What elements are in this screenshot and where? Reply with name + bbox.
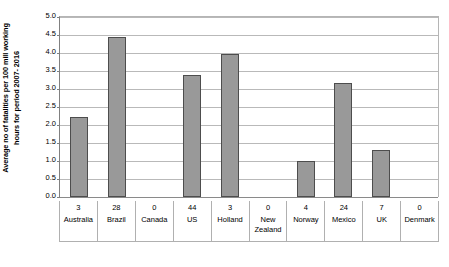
y-axis-title-wrap: Average no of fatalities per 100 mill wo…: [0, 0, 36, 200]
y-axis-tick-label: 0.5: [46, 174, 56, 182]
y-axis-tick-labels: 0.00.51.01.52.02.53.03.54.04.55.0: [36, 16, 58, 197]
bar: [334, 83, 352, 196]
category-label: UK: [363, 215, 400, 241]
y-axis-tick-label: 4.0: [46, 48, 56, 56]
bar-cell: [400, 17, 438, 197]
y-axis-tick-label: 2.5: [46, 102, 56, 110]
category-label: Holland: [212, 215, 249, 241]
y-axis-tick-label: 4.5: [46, 30, 56, 38]
y-axis-tick-label: 1.0: [46, 156, 56, 164]
bar: [372, 150, 390, 197]
bar: [221, 54, 239, 196]
category-count: 7: [363, 201, 400, 215]
bar: [108, 37, 126, 196]
category-count: 3: [212, 201, 249, 215]
category-count: 0: [136, 201, 173, 215]
table-column: 0New Zealand: [249, 201, 287, 241]
y-axis-tick-label: 3.0: [46, 84, 56, 92]
category-count: 28: [98, 201, 135, 215]
category-count: 4: [287, 201, 324, 215]
category-label: Brazil: [98, 215, 135, 241]
table-column: 0Denmark: [400, 201, 438, 241]
table-column: 24Mexico: [324, 201, 362, 241]
bar: [297, 161, 315, 197]
bar-cell: [325, 17, 363, 197]
y-axis-tick-label: 5.0: [46, 12, 56, 20]
category-count: 44: [174, 201, 211, 215]
y-axis-tick-label: 1.5: [46, 138, 56, 146]
bar-cell: [211, 17, 249, 197]
bar-chart: Average no of fatalities per 100 mill wo…: [0, 0, 449, 267]
bar-series: [60, 17, 438, 197]
category-count: 0: [250, 201, 287, 215]
category-data-table: 3Australia28Brazil0Canada44US3Holland0Ne…: [59, 201, 439, 242]
bar-cell: [173, 17, 211, 197]
plot-area: [59, 16, 439, 197]
bar-cell: [287, 17, 325, 197]
category-count: 0: [401, 201, 438, 215]
y-axis-tick-label: 0.0: [46, 192, 56, 200]
category-label: Norway: [287, 215, 324, 241]
y-axis-tick: [57, 197, 60, 198]
bar-cell: [249, 17, 287, 197]
bar-cell: [98, 17, 136, 197]
y-axis-title-line-1: Average no of fatalities per 100 mill wo…: [1, 23, 10, 173]
table-column: 7UK: [362, 201, 400, 241]
table-column: 4Norway: [286, 201, 324, 241]
category-label: US: [174, 215, 211, 241]
bar: [70, 117, 88, 196]
category-label: Canada: [136, 215, 173, 241]
y-axis-title: Average no of fatalities per 100 mill wo…: [0, 0, 22, 196]
y-axis-tick-label: 2.0: [46, 120, 56, 128]
category-count: 24: [325, 201, 362, 215]
category-count: 3: [60, 201, 97, 215]
gridline: [60, 197, 438, 198]
category-label: Mexico: [325, 215, 362, 241]
table-column: 28Brazil: [97, 201, 135, 241]
y-axis-title-line-2: hours for period 2007- 2016: [12, 51, 21, 145]
table-column: 0Canada: [135, 201, 173, 241]
bar-cell: [136, 17, 174, 197]
bar-cell: [60, 17, 98, 197]
table-column: 3Holland: [211, 201, 249, 241]
bar-cell: [362, 17, 400, 197]
bar: [183, 75, 201, 196]
y-axis-tick-label: 3.5: [46, 66, 56, 74]
category-label: Denmark: [401, 215, 438, 241]
table-column: 3Australia: [60, 201, 97, 241]
category-label: New Zealand: [250, 215, 287, 241]
category-label: Australia: [60, 215, 97, 241]
table-column: 44US: [173, 201, 211, 241]
